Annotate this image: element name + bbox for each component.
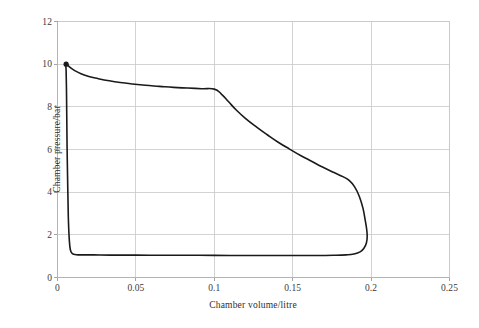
y-tick-label: 12 [26,17,52,27]
axis-ticks [54,22,450,282]
x-tick-label: 0.15 [284,283,301,293]
x-tick-label: 0.25 [441,283,458,293]
chart-screenshot: 024681012 00.050.10.150.20.25 Chamber pr… [0,0,479,328]
plot-svg [0,0,479,328]
pressure-volume-chart: 024681012 00.050.10.150.20.25 Chamber pr… [0,0,479,328]
y-axis-title: Chamber pressure/bar [52,105,62,193]
y-tick-label: 10 [26,59,52,69]
data-curve [66,64,367,256]
x-axis-title: Chamber volume/litre [209,300,297,310]
x-tick-label: 0 [55,283,60,293]
x-tick-label: 0.2 [365,283,377,293]
y-tick-label: 8 [26,102,52,112]
grid-lines-horizontal [58,22,450,278]
y-tick-label: 6 [26,145,52,155]
y-tick-label: 0 [26,273,52,283]
x-tick-label: 0.05 [127,283,144,293]
start-point-marker [64,62,69,67]
x-tick-label: 0.1 [208,283,220,293]
y-tick-label: 2 [26,230,52,240]
y-tick-label: 4 [26,187,52,197]
start-point-marker-dot [64,62,69,67]
data-curve-group [66,64,367,256]
